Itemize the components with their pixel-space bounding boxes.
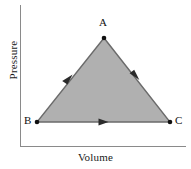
pressure-volume-cycle-diagram: A B C Pressure Volume [0, 0, 191, 169]
vertex-dot-b [35, 120, 40, 125]
x-axis-label: Volume [0, 151, 191, 163]
vertex-dot-a [102, 36, 107, 41]
vertex-label-b: B [24, 114, 31, 126]
y-axis-label: Pressure [7, 30, 19, 90]
triangle-cycle-shape [37, 38, 170, 122]
diagram-canvas [0, 0, 191, 169]
vertex-dot-c [168, 120, 173, 125]
vertex-label-a: A [99, 16, 107, 28]
vertex-label-c: C [175, 114, 182, 126]
